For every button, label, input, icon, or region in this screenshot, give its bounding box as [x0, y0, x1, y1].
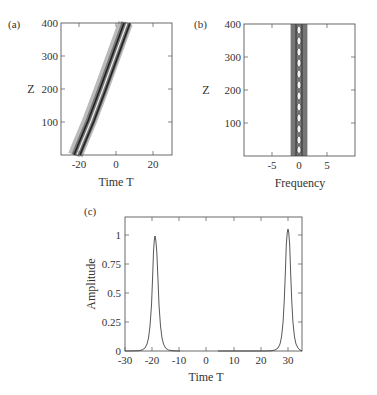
panel-b-xtick: 0 — [296, 159, 302, 171]
panel-a-xtick: 0 — [113, 158, 119, 170]
panel-a-ytick: 200 — [42, 83, 59, 95]
panel-c-label: (c) — [84, 205, 97, 218]
panel-c-xtick: -20 — [145, 354, 160, 366]
panel-a-ytick: 300 — [42, 50, 59, 62]
panel-b-xtick: 5 — [324, 159, 330, 171]
panel-c-frame — [125, 217, 302, 351]
panel-c-xtick: 20 — [256, 354, 268, 366]
pulse-input — [125, 236, 180, 351]
panel-b-xlabel: Frequency — [275, 176, 326, 190]
panel-c-xtick: 30 — [283, 354, 295, 366]
panel-b: (b) -5 0 5 100 20 — [194, 18, 355, 190]
panel-b-spectrum — [290, 24, 308, 156]
panel-c-ytick: 1 — [116, 229, 122, 241]
panel-c-xlabel: Time T — [188, 370, 224, 384]
pulse-output — [218, 229, 302, 351]
figure: (a) -20 0 20 100 200 300 400 Time T Z — [0, 0, 377, 395]
panel-a-label: (a) — [8, 18, 21, 31]
panel-c-ytick: 0.5 — [107, 287, 121, 299]
panel-a-xtick: -20 — [72, 158, 87, 170]
panel-b-ytick: 200 — [225, 84, 242, 96]
panel-c-xtick: 10 — [229, 354, 241, 366]
panel-a-ylabel: Z — [27, 82, 34, 96]
panel-b-ytick: 100 — [225, 117, 242, 129]
panel-a-trajectory — [74, 23, 130, 155]
panel-b-ytick: 400 — [225, 18, 242, 30]
panel-c-ytick: 0.25 — [102, 316, 122, 328]
panel-a-xlabel: Time T — [98, 175, 134, 189]
panel-b-label: (b) — [194, 18, 207, 31]
panel-c-ytick: 0.75 — [102, 258, 122, 270]
panel-c-xtick: -10 — [172, 354, 187, 366]
panel-a-ytick: 400 — [42, 17, 59, 29]
panel-a: (a) -20 0 20 100 200 300 400 Time T Z — [8, 17, 172, 189]
panel-a-xtick: 20 — [148, 158, 160, 170]
panel-b-ylabel: Z — [202, 83, 209, 97]
panel-b-xtick: -5 — [267, 159, 277, 171]
panel-c-xtick: 0 — [203, 354, 209, 366]
panel-a-ytick: 100 — [42, 116, 59, 128]
panel-c-ylabel: Amplitude — [84, 258, 98, 309]
panel-c-ytick: 0 — [116, 345, 122, 357]
panel-b-ytick: 300 — [225, 51, 242, 63]
panel-c: (c) -30 -20 -10 0 10 20 30 0 0.25 0.5 0.… — [84, 205, 302, 384]
